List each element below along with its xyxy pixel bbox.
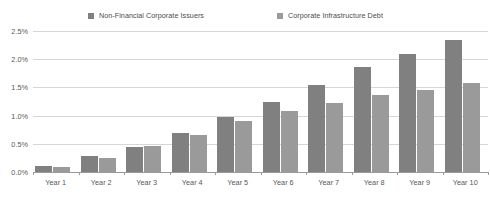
bar-group xyxy=(261,31,307,172)
x-axis-tick-label: Year 3 xyxy=(124,178,170,187)
x-axis-tick xyxy=(215,172,216,175)
bar-group xyxy=(215,31,261,172)
x-axis-tick-label: Year 6 xyxy=(261,178,307,187)
bar[interactable] xyxy=(235,121,252,172)
x-axis-tick xyxy=(352,172,353,175)
bar-group xyxy=(352,31,398,172)
bar[interactable] xyxy=(354,67,371,172)
bar[interactable] xyxy=(144,146,161,173)
x-axis-tick xyxy=(170,172,171,175)
legend-label: Non-Financial Corporate Issuers xyxy=(99,8,204,24)
bar[interactable] xyxy=(372,95,389,172)
legend-swatch-icon xyxy=(88,13,94,19)
y-axis-tick-label: 2.0% xyxy=(0,55,28,64)
bar[interactable] xyxy=(99,158,116,172)
x-axis-tick xyxy=(306,172,307,175)
y-axis-tick-label: 0.5% xyxy=(0,139,28,148)
legend-entry[interactable]: Corporate Infrastructure Debt xyxy=(277,8,383,24)
bar-group xyxy=(79,31,125,172)
chart-legend: Non-Financial Corporate IssuersCorporate… xyxy=(0,8,490,24)
y-axis-tick-label: 0.0% xyxy=(0,168,28,177)
bar-group xyxy=(443,31,489,172)
x-axis-tick-label: Year 5 xyxy=(215,178,261,187)
x-axis-tick-label: Year 9 xyxy=(397,178,443,187)
bar-group xyxy=(397,31,443,172)
bar[interactable] xyxy=(281,111,298,172)
x-axis-tick xyxy=(443,172,444,175)
bar[interactable] xyxy=(399,54,416,172)
bar[interactable] xyxy=(217,117,234,172)
y-axis-tick-label: 2.5% xyxy=(0,27,28,36)
bar-group xyxy=(124,31,170,172)
x-axis-tick-label: Year 4 xyxy=(170,178,216,187)
x-axis-tick xyxy=(488,172,489,175)
bar-group xyxy=(33,31,79,172)
bars-layer xyxy=(33,31,488,172)
bar[interactable] xyxy=(172,133,189,172)
legend-swatch-icon xyxy=(277,13,283,19)
y-axis-tick-label: 1.0% xyxy=(0,111,28,120)
bar-group xyxy=(306,31,352,172)
x-axis-tick xyxy=(33,172,34,175)
x-axis-tick-label: Year 7 xyxy=(306,178,352,187)
x-axis-tick-label: Year 2 xyxy=(79,178,125,187)
bar[interactable] xyxy=(326,103,343,172)
bar[interactable] xyxy=(190,135,207,172)
bar[interactable] xyxy=(417,90,434,172)
x-axis-tick xyxy=(261,172,262,175)
bar[interactable] xyxy=(308,85,325,172)
bar[interactable] xyxy=(445,40,462,172)
bar[interactable] xyxy=(463,83,480,172)
bar-group xyxy=(170,31,216,172)
bar[interactable] xyxy=(126,147,143,172)
bar-chart: Non-Financial Corporate IssuersCorporate… xyxy=(0,0,490,203)
x-axis-tick xyxy=(124,172,125,175)
x-axis-tick-label: Year 1 xyxy=(33,178,79,187)
bar[interactable] xyxy=(263,102,280,172)
x-axis-tick xyxy=(397,172,398,175)
x-axis-tick xyxy=(79,172,80,175)
bar[interactable] xyxy=(81,156,98,172)
y-axis-tick-label: 1.5% xyxy=(0,83,28,92)
legend-label: Corporate Infrastructure Debt xyxy=(288,8,383,24)
x-axis-tick-label: Year 8 xyxy=(352,178,398,187)
legend-entry[interactable]: Non-Financial Corporate Issuers xyxy=(88,8,204,24)
x-axis-tick-label: Year 10 xyxy=(443,178,489,187)
